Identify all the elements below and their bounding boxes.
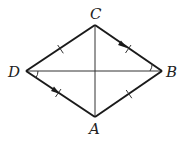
angle-arc-d xyxy=(36,71,38,78)
vertex-label-a: A xyxy=(87,120,100,138)
vertex-label-c: C xyxy=(90,5,102,23)
rhombus-diagram: C B A D xyxy=(0,0,187,143)
side-dc xyxy=(26,25,95,71)
angle-arc-b xyxy=(150,64,152,71)
vertex-label-b: B xyxy=(165,63,177,81)
vertex-label-d: D xyxy=(7,63,20,81)
